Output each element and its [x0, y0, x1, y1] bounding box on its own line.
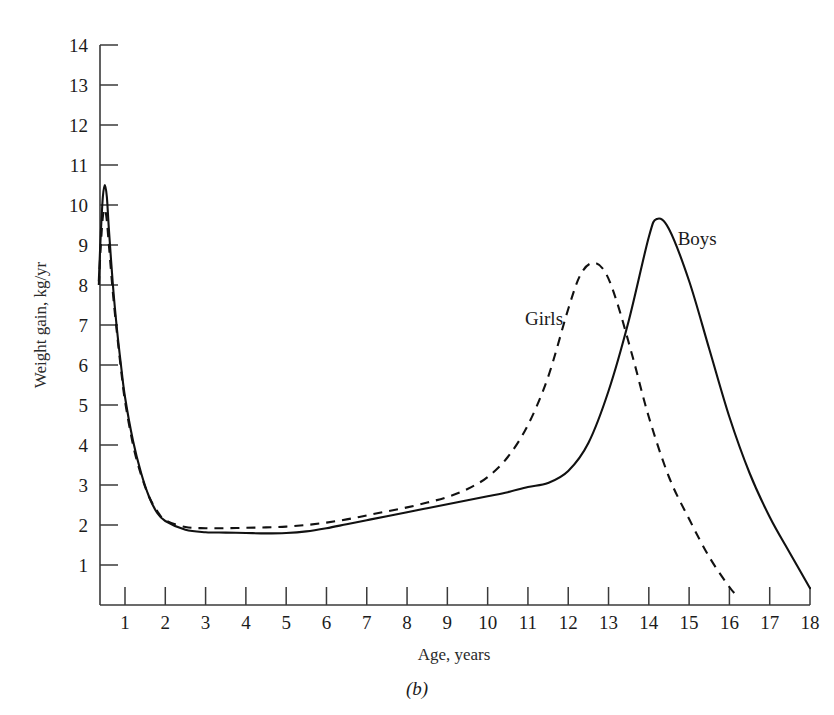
x-tick-label: 18: [801, 612, 820, 633]
y-tick-label: 2: [79, 515, 89, 536]
y-tick-label: 9: [79, 235, 89, 256]
y-tick-label: 10: [69, 195, 88, 216]
y-tick-label: 14: [69, 35, 89, 56]
y-tick-label: 13: [69, 75, 88, 96]
y-tick-label: 3: [79, 475, 89, 496]
y-tick-label: 7: [79, 315, 89, 336]
x-tick-label: 9: [443, 612, 453, 633]
x-tick-label: 16: [720, 612, 739, 633]
x-tick-label: 10: [478, 612, 497, 633]
weight-gain-chart: 1234567891011121314 12345678910111213141…: [0, 0, 834, 715]
x-tick-label: 2: [161, 612, 171, 633]
x-tick-label: 13: [599, 612, 618, 633]
y-tick-label: 1: [79, 555, 89, 576]
x-axis-title: Age, years: [418, 645, 491, 664]
growth-velocity-figure: 1234567891011121314 12345678910111213141…: [0, 0, 834, 715]
figure-caption: (b): [406, 678, 428, 700]
x-tick-label: 14: [639, 612, 659, 633]
x-tick-label: 5: [281, 612, 291, 633]
x-tick-label: 1: [120, 612, 130, 633]
x-axis-tick-labels: 123456789101112131415161718: [120, 612, 819, 633]
y-tick-label: 5: [79, 395, 89, 416]
y-tick-label: 4: [79, 435, 89, 456]
y-axis-title: Weight gain, kg/yr: [31, 261, 50, 388]
y-tick-label: 11: [70, 155, 88, 176]
y-tick-label: 6: [79, 355, 89, 376]
x-tick-label: 3: [201, 612, 211, 633]
x-tick-label: 17: [760, 612, 779, 633]
chart-axes: [100, 45, 810, 605]
x-axis-ticks: [125, 587, 810, 605]
series-annotation-girls: Girls: [525, 308, 563, 329]
x-tick-label: 8: [402, 612, 412, 633]
y-tick-label: 12: [69, 115, 88, 136]
y-tick-label: 8: [79, 275, 89, 296]
x-tick-label: 4: [241, 612, 251, 633]
x-tick-label: 12: [559, 612, 578, 633]
x-tick-label: 6: [322, 612, 332, 633]
series-annotation-boys: Boys: [678, 228, 717, 249]
x-tick-label: 11: [519, 612, 537, 633]
y-axis-tick-labels: 1234567891011121314: [69, 35, 89, 576]
x-tick-label: 7: [362, 612, 372, 633]
x-tick-label: 15: [680, 612, 699, 633]
